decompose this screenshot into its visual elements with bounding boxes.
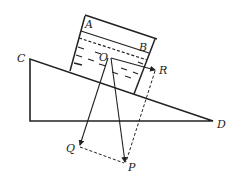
label-D: D (216, 118, 226, 131)
label-C: C (17, 52, 26, 65)
container-left-wall (70, 16, 85, 71)
label-A: A (84, 18, 93, 31)
vector-OQ (80, 58, 108, 145)
liquid-hatching (74, 47, 143, 78)
dashed-RP (126, 71, 155, 162)
label-P: P (127, 161, 136, 174)
label-B: B (138, 41, 147, 54)
container (70, 15, 157, 94)
construction-lines (80, 71, 155, 163)
force-diagram: A B C D O R Q P (0, 0, 241, 180)
vector-OR (111, 58, 155, 70)
label-O: O (99, 51, 108, 64)
label-Q: Q (66, 142, 75, 155)
dashed-QP (80, 147, 124, 163)
label-R: R (158, 64, 167, 77)
